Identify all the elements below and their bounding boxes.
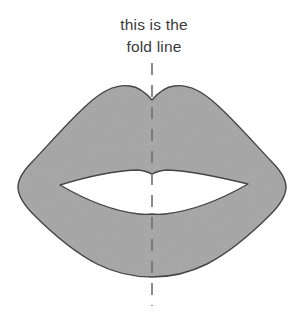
lips-artwork — [0, 0, 308, 314]
template-canvas: this is the fold line — [0, 0, 308, 314]
lips-shape — [0, 0, 308, 314]
